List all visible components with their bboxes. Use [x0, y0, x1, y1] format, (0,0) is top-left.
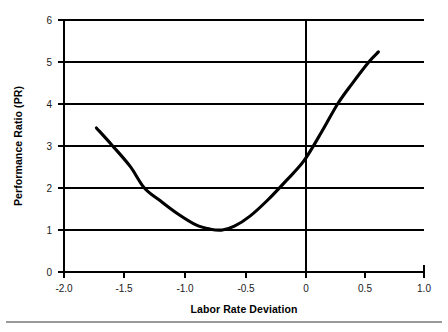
x-axis-title: Labor Rate Deviation — [190, 303, 297, 315]
y-tick-label-3: 3 — [46, 141, 52, 152]
chart-svg: 6 5 4 3 2 1 0 -2.0 -1.5 -1.0 -0.5 0 0.5 … — [0, 0, 448, 332]
x-tick-label-1-0: 1.0 — [417, 283, 431, 294]
chart-figure: 6 5 4 3 2 1 0 -2.0 -1.5 -1.0 -0.5 0 0.5 … — [0, 0, 448, 332]
gridlines — [64, 20, 424, 230]
x-tick-labels: -2.0 -1.5 -1.0 -0.5 0 0.5 1.0 — [55, 283, 431, 294]
x-tick-label-0-5: 0.5 — [358, 283, 372, 294]
x-tick-label-neg0-5: -0.5 — [237, 283, 255, 294]
x-tick-label-neg1-5: -1.5 — [115, 283, 133, 294]
x-tick-label-0: 0 — [303, 283, 309, 294]
performance-ratio-curve — [96, 52, 378, 230]
y-tick-label-0: 0 — [46, 267, 52, 278]
y-tick-label-2: 2 — [46, 183, 52, 194]
y-tick-label-4: 4 — [46, 99, 52, 110]
y-tick-label-6: 6 — [46, 15, 52, 26]
y-axis-title: Performance Ratio (PR) — [12, 86, 24, 206]
x-tick-label-neg1-0: -1.0 — [176, 283, 194, 294]
x-tick-label-neg2-0: -2.0 — [55, 283, 73, 294]
y-tick-labels: 6 5 4 3 2 1 0 — [46, 15, 52, 278]
y-tick-label-5: 5 — [46, 57, 52, 68]
y-tick-label-1: 1 — [46, 225, 52, 236]
